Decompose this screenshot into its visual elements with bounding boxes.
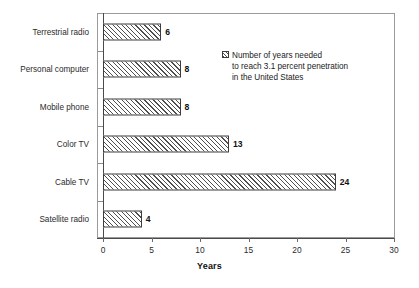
category-label: Personal computer [20, 65, 89, 74]
bar-value-label: 6 [165, 27, 170, 37]
category-label: Mobile phone [40, 102, 89, 111]
y-tick [98, 201, 103, 202]
category-label: Satellite radio [39, 215, 89, 224]
x-tick [297, 238, 298, 242]
category-label: Terrestrial radio [33, 27, 89, 36]
x-tick [152, 238, 153, 242]
x-tick-label: 25 [341, 245, 350, 255]
bar-row: Color TV13 [0, 126, 419, 164]
legend-hatched-square-icon [222, 51, 229, 58]
bar-row: Satellite radio4 [0, 201, 419, 239]
x-axis-line [97, 238, 395, 239]
legend: Number of years needed to reach 3.1 perc… [222, 50, 348, 84]
y-tick [98, 126, 103, 127]
bar-value-label: 4 [146, 214, 151, 224]
y-tick [98, 51, 103, 52]
bar-value-label: 24 [340, 177, 350, 187]
bar-row: Personal computer8 [0, 51, 419, 89]
x-tick-label: 5 [149, 245, 154, 255]
x-tick-label: 30 [389, 245, 398, 255]
y-tick [98, 88, 103, 89]
x-tick-label: 20 [292, 245, 301, 255]
bar-row: Terrestrial radio6 [0, 13, 419, 51]
bar-chart-figure: Terrestrial radio6Personal computer8Mobi… [0, 0, 419, 288]
bar-value-label: 8 [185, 102, 190, 112]
bar-row: Cable TV24 [0, 163, 419, 201]
x-tick [346, 238, 347, 242]
x-tick [249, 238, 250, 242]
bar [103, 61, 181, 78]
legend-label: Number of years needed to reach 3.1 perc… [232, 50, 348, 84]
bar-value-label: 13 [233, 139, 243, 149]
x-tick [103, 238, 104, 242]
x-tick-label: 0 [101, 245, 106, 255]
category-label: Cable TV [55, 177, 89, 186]
bar [103, 23, 161, 40]
bar [103, 98, 181, 115]
bar [103, 211, 142, 228]
bar-row: Mobile phone8 [0, 88, 419, 126]
x-tick [394, 238, 395, 242]
category-label: Color TV [57, 140, 89, 149]
x-tick-label: 10 [195, 245, 204, 255]
x-axis-title: Years [0, 261, 419, 271]
y-tick [98, 163, 103, 164]
bar [103, 173, 336, 190]
x-tick [200, 238, 201, 242]
x-tick-label: 15 [244, 245, 253, 255]
bar [103, 136, 229, 153]
bar-value-label: 8 [185, 64, 190, 74]
